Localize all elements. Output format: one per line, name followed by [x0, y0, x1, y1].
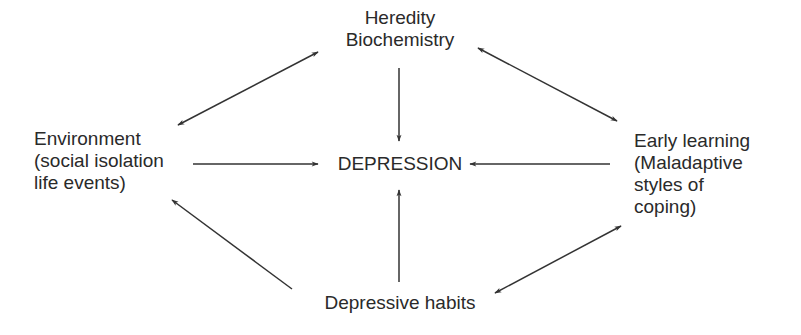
arrow-habits-to-environment — [172, 200, 292, 289]
node-environment: Environment (social isolation life event… — [34, 128, 164, 194]
node-heredity-biochemistry: Heredity Biochemistry — [340, 7, 460, 51]
node-learning-line-2: (Maladaptive — [634, 152, 750, 174]
node-environment-line-3: life events) — [34, 172, 164, 194]
node-learning-line-1: Early learning — [634, 130, 750, 152]
depression-causal-diagram: Heredity Biochemistry DEPRESSION Environ… — [0, 0, 801, 335]
node-depression: DEPRESSION — [330, 153, 470, 175]
node-learning-line-3: styles of — [634, 174, 750, 196]
node-environment-line-1: Environment — [34, 128, 164, 150]
arrow-heredity-environment-bidirectional — [178, 52, 318, 125]
node-depressive-habits: Depressive habits — [300, 292, 500, 314]
node-habits-label: Depressive habits — [300, 292, 500, 314]
node-depression-label: DEPRESSION — [330, 153, 470, 175]
node-heredity-line-2: Biochemistry — [340, 29, 460, 51]
arrow-heredity-learning-bidirectional — [478, 48, 617, 121]
node-environment-line-2: (social isolation — [34, 150, 164, 172]
node-heredity-line-1: Heredity — [340, 7, 460, 29]
arrow-habits-learning-bidirectional — [495, 226, 621, 293]
node-early-learning: Early learning (Maladaptive styles of co… — [634, 130, 750, 218]
node-learning-line-4: coping) — [634, 196, 750, 218]
